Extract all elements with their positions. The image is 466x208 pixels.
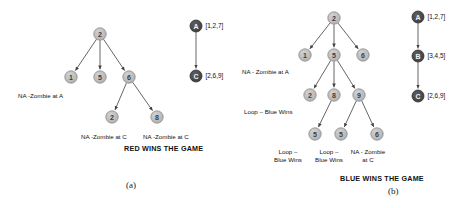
node-b-root[interactable]: 2 [328,12,340,24]
tree-edge-tree-p1 [362,101,374,127]
tree-edge-tree-p0 [75,39,96,70]
node-a-n6[interactable]: 6 [123,71,135,83]
node-b-n5[interactable]: 5 [328,49,340,61]
value-list-b-B: [3,4,5] [428,52,446,59]
node-b-n2[interactable]: 2 [304,89,316,101]
node-b-A[interactable]: A [412,11,424,23]
tree-edge-tree-p1 [318,101,331,127]
node-value-label: 6 [127,74,131,81]
node-value-label: 6 [361,52,365,59]
annotation-a-ann-3: NA -Zombie at C [143,133,189,141]
tree-edge-tree-p1 [314,60,331,88]
node-value-label: 1 [69,74,73,81]
annotation-b-ann-5: NA - Zombie at C [344,148,392,163]
tree-edge-tree-p0 [103,39,124,70]
node-b-n8[interactable]: 8 [328,89,340,101]
node-value-label: B [415,53,420,60]
node-a-n8[interactable]: 8 [151,111,163,123]
value-list-a-A: [1,2,7] [206,22,224,29]
value-list-b-C: [2,6,9] [428,92,446,99]
node-b-C[interactable]: C [412,90,424,102]
node-value-label: 2 [110,114,114,121]
node-value-label: 5 [332,52,336,59]
tree-edge-tree-p1 [344,101,356,127]
value-list-a-C: [2,6,9] [206,72,224,79]
node-b-n5b[interactable]: 5 [335,128,347,140]
node-value-label: 1 [303,52,307,59]
caption-a: RED WINS THE GAME [124,144,203,153]
node-a-n5[interactable]: 5 [94,71,106,83]
node-a-n2b[interactable]: 2 [106,111,118,123]
tree-edge-tree-p1 [338,23,358,49]
annotation-a-ann-2: NA -Zombie at C [81,133,127,141]
node-b-B[interactable]: B [412,50,424,62]
node-value-label: 8 [332,92,336,99]
node-b-n6[interactable]: 6 [357,49,369,61]
node-a-root[interactable]: 2 [94,28,106,40]
node-value-label: 5 [313,131,317,138]
panel-letter-b: (b) [388,186,399,196]
annotation-a-ann-1: NA -Zombie at A [18,92,63,100]
node-b-n9[interactable]: 9 [353,89,365,101]
tree-edge-tree-p0 [115,83,127,110]
node-b-n1[interactable]: 1 [299,49,311,61]
panel-letter-a: (a) [126,180,136,190]
figure-canvas: 215628AC2156289556ABC [1,2,7][2,6,9]NA -… [0,0,466,208]
node-value-label: 8 [155,114,159,121]
node-value-label: 9 [357,92,361,99]
node-value-label: 2 [308,92,312,99]
caption-b: BLUE WINS THE GAME [340,174,424,183]
node-value-label: C [415,93,420,100]
node-value-label: 2 [98,31,102,38]
node-value-label: 6 [375,131,379,138]
annotation-b-ann-2: Loop – Blue Wins [244,108,293,116]
tree-edge-tree-p1 [310,23,330,49]
node-b-n6b[interactable]: 6 [371,128,383,140]
node-value-label: 5 [98,74,102,81]
tree-edge-tree-p0 [133,82,153,111]
node-a-A[interactable]: A [190,20,202,32]
node-value-label: 2 [332,15,336,22]
value-list-b-A: [1,2,7] [428,13,446,20]
node-value-label: C [193,73,198,80]
tree-edge-tree-p1 [337,60,355,88]
node-value-label: 5 [339,131,343,138]
node-b-n5a[interactable]: 5 [309,128,321,140]
node-a-n1[interactable]: 1 [65,71,77,83]
tree-nodes: 215628AC2156289556ABC [65,11,424,140]
annotation-b-ann-1: NA - Zombie at A [242,68,289,76]
node-a-C[interactable]: C [190,70,202,82]
node-value-label: A [415,14,420,21]
node-value-label: A [193,23,198,30]
